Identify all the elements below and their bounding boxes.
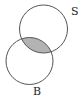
label-s: S xyxy=(71,5,79,18)
label-b: B xyxy=(33,85,41,98)
